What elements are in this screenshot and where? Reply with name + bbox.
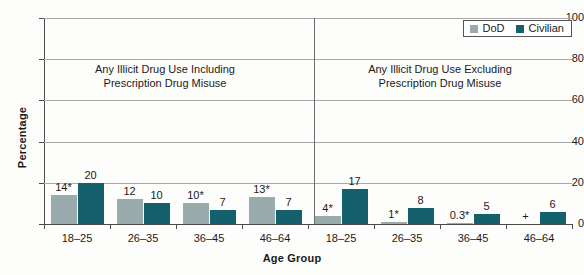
x-tick-mark — [374, 224, 375, 229]
gridline-100 — [44, 18, 572, 19]
panel-caption-including-line1: Any Illicit Drug Use Including — [95, 63, 235, 75]
bar-value-label: 8 — [401, 194, 441, 206]
x-tick-mark — [176, 224, 177, 229]
bar[interactable] — [276, 210, 302, 224]
bar-value-label: 7 — [203, 196, 243, 208]
bar-value-label: 7 — [269, 196, 309, 208]
bar[interactable] — [117, 199, 143, 224]
panel-divider — [314, 18, 315, 224]
plot-area: 14*20121010*713*74*171*80.3*5+6 — [44, 18, 572, 224]
x-tick-mark-end-0 — [44, 224, 45, 229]
bar[interactable] — [447, 223, 473, 224]
bar-value-label: 13* — [242, 183, 282, 195]
bar-value-label: 20 — [71, 169, 111, 181]
x-tick-label: 46–64 — [245, 232, 305, 244]
legend-swatch-dod — [470, 25, 478, 33]
chart-figure: Percentage 020406080100 14*20121010*713*… — [0, 0, 584, 275]
legend-entry-civilian[interactable]: Civilian — [516, 23, 564, 34]
bar-value-label: 6 — [533, 198, 573, 210]
bar-value-label: 10 — [137, 189, 177, 201]
x-tick-mark — [440, 224, 441, 229]
legend-swatch-civilian — [516, 25, 524, 33]
panel-caption-excluding-line2: Prescription Drug Misuse — [325, 76, 555, 90]
x-tick-label: 36–45 — [443, 232, 503, 244]
legend-label-civilian: Civilian — [529, 23, 564, 34]
x-tick-label: 18–25 — [311, 232, 371, 244]
gridline-40 — [44, 142, 572, 143]
bar[interactable] — [540, 212, 566, 224]
bar[interactable] — [78, 183, 104, 224]
gridline-60 — [44, 100, 572, 101]
legend-label-dod: DoD — [483, 23, 505, 34]
bar[interactable] — [315, 216, 341, 224]
x-tick-mark — [110, 224, 111, 229]
x-tick-mark — [308, 224, 309, 229]
x-tick-mark — [242, 224, 243, 229]
x-tick-label: 26–35 — [377, 232, 437, 244]
bar[interactable] — [408, 208, 434, 224]
bar[interactable] — [210, 210, 236, 224]
bar-value-label: 5 — [467, 200, 507, 212]
bar[interactable] — [144, 203, 170, 224]
x-tick-label: 26–35 — [113, 232, 173, 244]
y-axis-title: Percentage — [16, 0, 32, 275]
legend: DoD Civilian — [463, 20, 572, 37]
x-tick-mark-end-1 — [572, 224, 573, 229]
panel-caption-excluding: Any Illicit Drug Use Excluding Prescript… — [325, 62, 555, 90]
gridline-20 — [44, 183, 572, 184]
bar[interactable] — [381, 222, 407, 224]
x-tick-label: 18–25 — [47, 232, 107, 244]
bar[interactable] — [342, 189, 368, 224]
gridline-80 — [44, 59, 572, 60]
panel-caption-excluding-line1: Any Illicit Drug Use Excluding — [368, 63, 512, 75]
panel-caption-including-line2: Prescription Drug Misuse — [50, 76, 280, 90]
panel-caption-including: Any Illicit Drug Use Including Prescript… — [50, 62, 280, 90]
x-axis-title: Age Group — [0, 252, 584, 264]
bar-value-label: 17 — [335, 175, 375, 187]
x-tick-mark — [506, 224, 507, 229]
x-tick-label: 36–45 — [179, 232, 239, 244]
bar[interactable] — [51, 195, 77, 224]
x-tick-label: 46–64 — [509, 232, 569, 244]
legend-entry-dod[interactable]: DoD — [470, 23, 505, 34]
bar[interactable] — [474, 214, 500, 224]
